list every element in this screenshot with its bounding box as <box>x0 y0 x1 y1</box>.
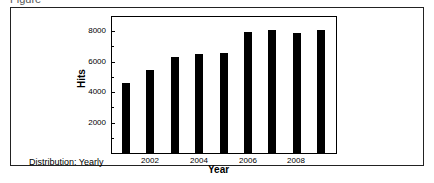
y-tick-6000 <box>111 62 115 63</box>
bar-2002 <box>146 70 154 153</box>
y-tick-minor <box>111 77 114 78</box>
bar-2004 <box>195 54 203 153</box>
bar-2008 <box>293 33 301 153</box>
y-tick-label: 2000 <box>66 118 106 127</box>
bar-2007 <box>268 30 276 153</box>
y-tick-label: 8000 <box>66 26 106 35</box>
y-axis-title: Hits <box>76 69 87 88</box>
figure-caption: Figure <box>10 0 41 5</box>
y-tick-minor <box>111 46 114 47</box>
bar-2001 <box>122 83 130 153</box>
x-tick-label: 2008 <box>281 156 311 165</box>
x-tick-label: 2006 <box>233 156 263 165</box>
bar-2009 <box>317 30 325 153</box>
y-tick-minor <box>111 107 114 108</box>
y-tick-label: 4000 <box>66 87 106 96</box>
y-tick-2000 <box>111 123 115 124</box>
bar-2003 <box>171 57 179 153</box>
y-tick-minor <box>111 138 114 139</box>
y-tick-label: 6000 <box>66 57 106 66</box>
y-tick-4000 <box>111 92 115 93</box>
bar-2005 <box>220 53 228 153</box>
x-axis-title: Year <box>208 164 229 175</box>
distribution-note: Distribution: Yearly <box>29 157 104 167</box>
y-tick-8000 <box>111 31 115 32</box>
bar-2006 <box>244 32 252 153</box>
x-tick-label: 2002 <box>135 156 165 165</box>
